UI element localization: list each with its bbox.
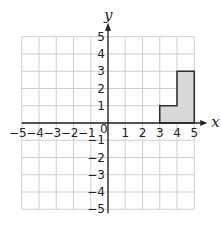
shaded-shape bbox=[160, 71, 195, 123]
x-tick-label: 1 bbox=[121, 126, 129, 140]
y-axis-label: y bbox=[103, 6, 113, 24]
y-tick-label: 3 bbox=[97, 64, 105, 78]
y-tick-label: −4 bbox=[87, 185, 105, 199]
y-tick-label: 2 bbox=[97, 82, 105, 96]
y-axis-arrow-icon bbox=[105, 23, 111, 31]
x-tick-label: 2 bbox=[139, 126, 147, 140]
x-tick-label: −2 bbox=[61, 126, 79, 140]
x-tick-label: 3 bbox=[156, 126, 164, 140]
y-tick-label: −2 bbox=[87, 151, 105, 165]
x-tick-label: 5 bbox=[190, 126, 198, 140]
x-tick-label: −3 bbox=[43, 126, 61, 140]
coordinate-plane: xy−5−4−3−2−101234554321−1−2−3−4−5 bbox=[0, 0, 221, 225]
y-tick-label: −1 bbox=[87, 133, 105, 147]
y-tick-label: −5 bbox=[87, 202, 105, 216]
x-tick-label: 4 bbox=[173, 126, 181, 140]
y-tick-label: −3 bbox=[87, 168, 105, 182]
y-tick-label: 1 bbox=[97, 99, 105, 113]
y-tick-label: 5 bbox=[97, 30, 105, 44]
x-tick-label: −5 bbox=[9, 126, 27, 140]
x-tick-label: −4 bbox=[26, 126, 44, 140]
x-axis-label: x bbox=[211, 113, 220, 131]
y-tick-label: 4 bbox=[97, 47, 105, 61]
x-axis-arrow-icon bbox=[200, 120, 207, 126]
